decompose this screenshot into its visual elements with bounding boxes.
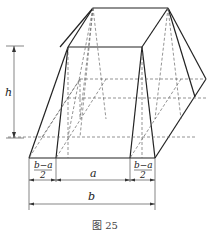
left-offset-denominator: 2 bbox=[39, 170, 46, 180]
top-width-label: a bbox=[90, 167, 97, 180]
figure-caption: 图 25 bbox=[92, 220, 118, 231]
right-offset-denominator: 2 bbox=[139, 170, 146, 180]
height-label: h bbox=[5, 86, 12, 99]
right-offset-numerator: b−a bbox=[134, 160, 153, 170]
bottom-width-label: b bbox=[88, 190, 95, 203]
visible-edges bbox=[29, 8, 206, 158]
top-face bbox=[68, 8, 168, 47]
height-dimension: h bbox=[5, 46, 24, 138]
hidden-edges bbox=[8, 8, 206, 158]
bottom-dimensions: b−a 2 b−a 2 a b bbox=[29, 158, 155, 210]
diagram: h b−a 2 b−a 2 a b 图 25 bbox=[0, 0, 213, 236]
left-offset-numerator: b−a bbox=[34, 160, 53, 170]
